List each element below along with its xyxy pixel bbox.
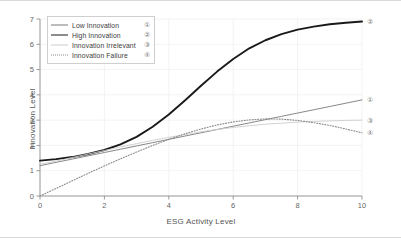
legend-line-swatch-1 (51, 21, 68, 29)
x-axis-label: ESG Activity Level (40, 217, 362, 226)
legend-line-swatch-3 (51, 41, 68, 49)
legend-item-innovation-irrelevant[interactable]: Innovation Irrelevant ③ (51, 40, 150, 50)
legend-marker-3: ③ (142, 41, 150, 49)
legend-line-swatch-2 (51, 31, 68, 39)
y-tick-label: 5 (30, 65, 34, 74)
legend-marker-4: ④ (142, 51, 150, 59)
series-endpoint-marker-3: ③ (367, 117, 373, 124)
y-tick-label: 3 (30, 116, 34, 125)
x-tick-label: 6 (231, 201, 235, 210)
x-tick-label: 2 (102, 201, 106, 210)
x-tick-label: 8 (296, 201, 300, 210)
series-endpoint-marker-1: ① (367, 96, 373, 103)
y-tick-label: 1 (30, 166, 34, 175)
chart-figure: Innovation Level ESG Activity Level 0123… (0, 0, 401, 238)
series-line-innovation-failure (40, 119, 362, 196)
y-tick-label: 2 (30, 141, 34, 150)
legend-label-3: Innovation Irrelevant (72, 42, 136, 49)
chart-legend: Low Innovation ① High Innovation ② Innov… (47, 16, 155, 64)
legend-line-swatch-4 (51, 51, 68, 59)
legend-marker-2: ② (142, 31, 150, 39)
y-tick-label: 7 (30, 15, 34, 24)
x-tick-label: 10 (358, 201, 366, 210)
series-line-low-innovation (40, 100, 362, 166)
legend-marker-1: ① (142, 21, 150, 29)
legend-label-2: High Innovation (72, 32, 136, 39)
series-endpoint-marker-4: ④ (367, 129, 373, 136)
y-tick-label: 0 (30, 192, 34, 201)
series-line-innovation-irrelevant (40, 120, 362, 164)
series-endpoint-marker-2: ② (367, 18, 373, 25)
legend-item-innovation-failure[interactable]: Innovation Failure ④ (51, 50, 150, 60)
legend-item-high-innovation[interactable]: High Innovation ② (51, 30, 150, 40)
x-tick-label: 4 (167, 201, 171, 210)
x-tick-label: 0 (38, 201, 42, 210)
legend-item-low-innovation[interactable]: Low Innovation ① (51, 20, 150, 30)
y-tick-label: 6 (30, 40, 34, 49)
y-tick-label: 4 (30, 91, 34, 100)
legend-label-4: Innovation Failure (72, 52, 136, 59)
legend-label-1: Low Innovation (72, 22, 136, 29)
